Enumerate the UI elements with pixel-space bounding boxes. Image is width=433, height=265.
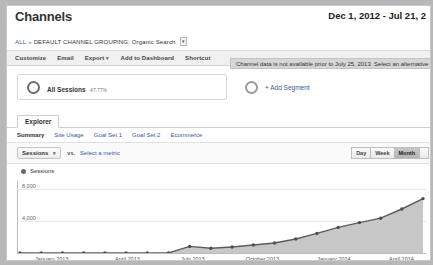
toolbar-shortcut-label: Shortcut	[185, 55, 210, 61]
segment-donut-icon	[27, 81, 40, 94]
x-tick-october-2013: October 2013	[246, 256, 279, 261]
chevron-down-icon: ▾	[106, 55, 109, 61]
x-tick-april-2013: April 2013	[115, 256, 140, 261]
metric-vs-label: vs.	[67, 150, 75, 156]
date-range-selector[interactable]: Dec 1, 2012 - Jul 21, 2	[328, 10, 426, 21]
toolbar-email-button[interactable]: Email	[57, 55, 74, 61]
toolbar-export-label: Export	[85, 55, 105, 61]
tab-strip: Explorer	[7, 114, 430, 128]
toolbar-customize-button[interactable]: Customize	[15, 55, 46, 61]
add-segment-button[interactable]: + Add Segment	[245, 74, 310, 100]
breadcrumb: ALL » DEFAULT CHANNEL GROUPING: Organic …	[7, 36, 430, 46]
breadcrumb-current: DEFAULT CHANNEL GROUPING: Organic Search	[34, 39, 176, 45]
chart-data-point[interactable]	[294, 237, 297, 240]
toolbar-shortcut-button[interactable]: Shortcut	[185, 55, 210, 61]
chart-data-point[interactable]	[315, 232, 318, 235]
sub-tab-goal-set-2[interactable]: Goal Set 2	[132, 132, 160, 138]
granularity-week-button[interactable]: Week	[370, 147, 393, 159]
segment-name: All Sessions	[47, 86, 86, 93]
metric-selector-row: Sessions ▾ vs. Select a metric Day Week …	[7, 143, 430, 164]
x-axis: January 2013 April 2013 July 2013 Octobe…	[17, 253, 426, 261]
x-tick-april-2014: April 2014	[389, 256, 414, 261]
chart-data-point[interactable]	[209, 247, 212, 250]
granularity-button-group: Day Week Month	[351, 147, 429, 159]
notification-banner: Channel data is not available prior to J…	[230, 58, 430, 69]
segment-text: All Sessions 47.77%	[47, 78, 107, 96]
sub-tab-goal-set-1[interactable]: Goal Set 1	[94, 132, 122, 138]
chart-data-point[interactable]	[336, 226, 339, 229]
primary-metric-dropdown[interactable]: Sessions ▾	[17, 147, 61, 159]
granularity-more-button[interactable]	[419, 147, 429, 159]
analytics-report-panel: Channels Dec 1, 2012 - Jul 21, 2 ALL » D…	[6, 5, 431, 261]
granularity-day-button[interactable]: Day	[351, 147, 370, 159]
report-header: Channels Dec 1, 2012 - Jul 21, 2	[7, 6, 430, 36]
notification-text: Channel data is not available prior to J…	[236, 61, 430, 67]
chart-plot-area[interactable]: 8,000 4,000	[17, 181, 426, 253]
chevron-down-icon: ▾	[53, 150, 56, 156]
chevron-down-icon[interactable]: ▾	[180, 37, 187, 46]
sub-tab-site-usage[interactable]: Site Usage	[54, 132, 83, 138]
chart-data-point[interactable]	[379, 217, 382, 220]
breadcrumb-separator-icon: »	[28, 39, 32, 45]
x-tick-january-2013: January 2013	[35, 256, 68, 261]
chart-data-point[interactable]	[358, 221, 361, 224]
primary-metric-label: Sessions	[22, 150, 48, 156]
sub-tab-ecommerce[interactable]: Ecommerce	[170, 132, 202, 138]
chart-svg	[17, 181, 426, 253]
segment-all-sessions[interactable]: All Sessions 47.77%	[17, 74, 227, 100]
toolbar-add-to-dashboard-label: Add to Dashboard	[120, 55, 174, 61]
legend-marker-icon	[21, 169, 26, 174]
tab-explorer[interactable]: Explorer	[17, 115, 59, 128]
segment-percent: 47.77%	[90, 87, 107, 93]
chart-data-point[interactable]	[188, 245, 191, 248]
sub-tab-strip: Summary Site Usage Goal Set 1 Goal Set 2…	[7, 128, 430, 143]
add-segment-label: + Add Segment	[265, 84, 310, 91]
breadcrumb-root[interactable]: ALL	[15, 39, 26, 45]
x-tick-january-2014: January 2014	[317, 256, 350, 261]
chart-data-point[interactable]	[273, 241, 276, 244]
sub-tab-summary[interactable]: Summary	[17, 132, 44, 138]
toolbar-customize-label: Customize	[15, 55, 46, 61]
chart-data-point[interactable]	[421, 197, 424, 200]
x-tick-july-2013: July 2013	[181, 256, 205, 261]
segment-bar: All Sessions 47.77% + Add Segment	[7, 66, 430, 114]
chart-data-point[interactable]	[230, 245, 233, 248]
chart-legend: Sessions	[21, 168, 430, 174]
chart-data-point[interactable]	[252, 243, 255, 246]
granularity-month-button[interactable]: Month	[394, 147, 420, 159]
secondary-metric-selector[interactable]: Select a metric	[80, 150, 120, 156]
chart-data-point[interactable]	[400, 207, 403, 210]
toolbar-export-button[interactable]: Export ▾	[85, 55, 110, 61]
toolbar-email-label: Email	[57, 55, 74, 61]
toolbar-add-to-dashboard-button[interactable]: Add to Dashboard	[120, 55, 174, 61]
legend-label-sessions: Sessions	[30, 168, 54, 174]
sessions-chart: Sessions 8,000 4,000 January 2013 April …	[7, 164, 430, 261]
add-segment-donut-icon	[245, 81, 258, 94]
